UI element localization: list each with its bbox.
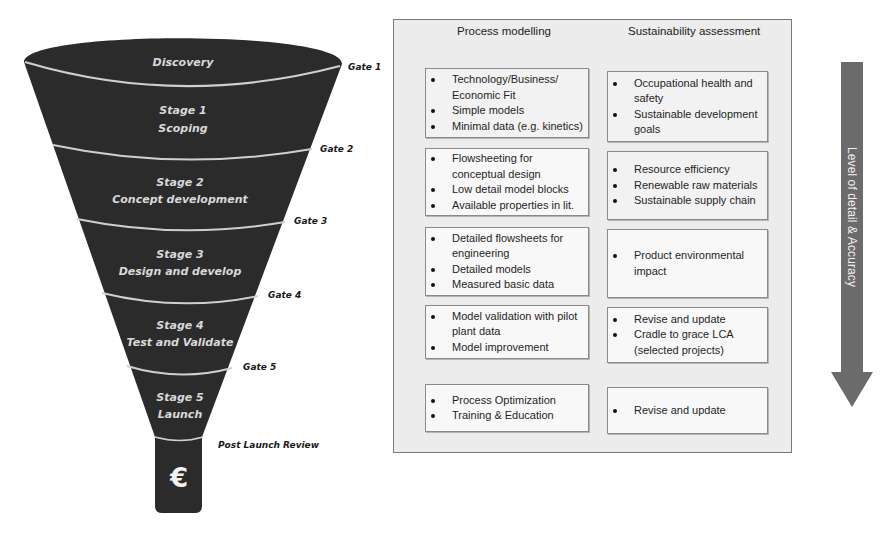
arrow-label: Level of detail & Accuracy <box>845 147 859 287</box>
list-item: Occupational health and safety <box>610 76 763 107</box>
process-box-stage-5: Process Optimization Training & Educatio… <box>425 384 589 432</box>
list-item: Detailed flowsheets for engineering <box>428 231 584 262</box>
list-item: Low detail model blocks <box>428 182 584 198</box>
stage-5-label: Launch <box>158 408 203 421</box>
euro-icon: € <box>169 463 188 493</box>
list-item: Detailed models <box>428 262 584 278</box>
sustainability-box-stage-2: Resource efficiency Renewable raw materi… <box>607 151 768 220</box>
stage-discovery-label: Discovery <box>153 56 215 69</box>
sustainability-box-stage-3: Product environmental impact <box>607 229 768 298</box>
list-item: Measured basic data <box>428 277 584 293</box>
stage-4-title: Stage 4 <box>156 319 203 332</box>
sustainability-box-stage-5: Revise and update <box>607 387 768 434</box>
list-item: Resource efficiency <box>610 162 763 178</box>
stage-1-label: Scoping <box>158 122 207 135</box>
list-item: Flowsheeting for conceptual design <box>428 151 584 182</box>
list-item: Sustainable development goals <box>610 107 763 138</box>
stage-1-title: Stage 1 <box>159 104 206 117</box>
list-item: Training & Education <box>428 408 584 424</box>
process-box-stage-4: Model validation with pilot plant data M… <box>425 305 589 359</box>
level-of-detail-arrow: Level of detail & Accuracy <box>831 62 873 407</box>
process-modelling-header: Process modelling <box>457 25 551 37</box>
stage-2-title: Stage 2 <box>156 176 204 189</box>
list-item: Product environmental impact <box>610 248 763 279</box>
stage-gate-funnel: Discovery Stage 1 Scoping Stage 2 Concep… <box>0 0 400 533</box>
stage-3-label: Design and develop <box>119 265 242 278</box>
stage-3-title: Stage 3 <box>156 248 204 261</box>
list-item: Model validation with pilot plant data <box>428 309 584 340</box>
list-item: Minimal data (e.g. kinetics) <box>428 119 584 135</box>
list-item: Sustainable supply chain <box>610 193 763 209</box>
sustainability-box-stage-1: Occupational health and safety Sustainab… <box>607 71 768 142</box>
sustainability-box-stage-4: Revise and update Cradle to grace LCA (s… <box>607 307 768 363</box>
assessment-panel: Process modelling Sustainability assessm… <box>393 19 792 453</box>
list-item: Revise and update <box>610 403 763 419</box>
gate-5-label: Gate 5 <box>243 362 276 372</box>
process-box-stage-2: Flowsheeting for conceptual design Low d… <box>425 148 589 216</box>
gate-1-label: Gate 1 <box>348 62 381 72</box>
list-item: Process Optimization <box>428 393 584 409</box>
stage-2-label: Concept development <box>112 193 248 206</box>
gate-2-label: Gate 2 <box>320 144 353 154</box>
list-item: Technology/Business/ Economic Fit <box>428 72 584 103</box>
list-item: Revise and update <box>610 312 763 328</box>
process-box-stage-1: Technology/Business/ Economic Fit Simple… <box>425 68 589 138</box>
list-item: Cradle to grace LCA (selected projects) <box>610 327 763 358</box>
list-item: Model improvement <box>428 340 584 356</box>
arrow-down-icon <box>831 372 873 407</box>
stage-4-label: Test and Validate <box>127 336 234 349</box>
list-item: Renewable raw materials <box>610 178 763 194</box>
gate-3-label: Gate 3 <box>294 216 327 226</box>
gate-4-label: Gate 4 <box>268 290 301 300</box>
list-item: Available properties in lit. <box>428 198 584 214</box>
process-box-stage-3: Detailed flowsheets for engineering Deta… <box>425 227 589 296</box>
stage-5-title: Stage 5 <box>156 391 204 404</box>
list-item: Simple models <box>428 103 584 119</box>
post-launch-review-label: Post Launch Review <box>218 440 320 450</box>
sustainability-assessment-header: Sustainability assessment <box>628 25 760 37</box>
